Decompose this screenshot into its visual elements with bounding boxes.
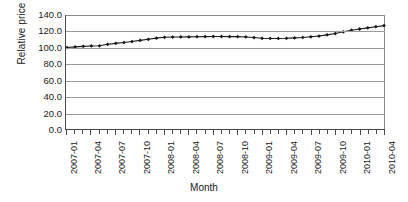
data-point-marker	[325, 33, 329, 37]
data-point-marker	[317, 34, 321, 38]
x-tick	[343, 130, 344, 134]
relative-price-line-chart: Relative price 0.020.040.060.080.0100.01…	[0, 0, 408, 202]
y-axis-tick-labels: 0.020.040.060.080.0100.0120.0140.0	[18, 10, 62, 134]
x-tick	[376, 130, 377, 134]
x-tick	[82, 130, 83, 134]
x-tick	[156, 130, 157, 134]
x-tick	[286, 130, 287, 135]
x-tick	[99, 130, 100, 134]
x-tick	[229, 130, 230, 134]
data-point-marker	[260, 36, 264, 40]
data-point-marker	[293, 36, 297, 40]
x-tick-label: 2008-07	[216, 141, 225, 174]
x-tick-label: 2010-04	[388, 141, 397, 174]
x-tick-label: 2008-01	[167, 141, 176, 174]
x-tick	[221, 130, 222, 134]
x-tick	[205, 130, 206, 134]
x-tick	[188, 130, 189, 135]
x-tick	[245, 130, 246, 134]
data-point-marker	[220, 35, 224, 39]
data-point-marker	[301, 36, 305, 40]
data-point-marker	[276, 37, 280, 41]
gridline	[66, 48, 385, 49]
x-tick-label: 2007-01	[70, 141, 79, 174]
x-tick-label: 2009-04	[290, 141, 299, 174]
data-point-marker	[228, 35, 232, 39]
x-tick	[180, 130, 181, 134]
x-tick	[360, 130, 361, 135]
data-point-marker	[122, 41, 126, 45]
x-tick	[123, 130, 124, 134]
x-tick	[74, 130, 75, 134]
gridline	[66, 114, 385, 115]
x-tick	[237, 130, 238, 135]
y-tick-label: 120.0	[38, 27, 62, 37]
series-line	[67, 26, 384, 48]
x-tick-label: 2008-04	[192, 141, 201, 174]
data-point-marker	[358, 27, 362, 31]
x-tick	[196, 130, 197, 134]
x-tick	[278, 130, 279, 134]
data-point-marker	[374, 25, 378, 29]
x-tick	[302, 130, 303, 134]
data-point-marker	[187, 35, 191, 39]
x-tick-label: 2009-01	[265, 141, 274, 174]
data-point-marker	[114, 41, 118, 45]
y-tick-label: 40.0	[44, 92, 63, 102]
x-tick	[254, 130, 255, 134]
x-tick	[327, 130, 328, 134]
y-tick-label: 0.0	[49, 125, 62, 135]
data-point-marker	[179, 35, 183, 39]
x-tick	[172, 130, 173, 134]
x-tick-label: 2009-07	[314, 141, 323, 174]
x-tick-label: 2009-10	[339, 141, 348, 174]
data-point-marker	[309, 35, 313, 39]
data-point-marker	[130, 40, 134, 44]
x-tick	[368, 130, 369, 134]
x-tick	[270, 130, 271, 134]
x-tick	[213, 130, 214, 135]
x-tick	[148, 130, 149, 134]
y-tick-label: 100.0	[38, 43, 62, 53]
data-point-marker	[138, 39, 142, 43]
y-tick-label: 20.0	[44, 109, 63, 119]
y-tick-label: 60.0	[44, 76, 63, 86]
data-point-marker	[146, 37, 150, 41]
data-point-marker	[155, 36, 159, 40]
y-tick-label: 80.0	[44, 60, 63, 70]
data-point-marker	[171, 35, 175, 39]
x-tick	[384, 130, 385, 135]
x-tick-label: 2007-04	[94, 141, 103, 174]
data-point-marker	[236, 35, 240, 39]
data-point-marker	[106, 42, 110, 46]
x-tick	[294, 130, 295, 134]
data-point-marker	[203, 35, 207, 39]
data-point-marker	[382, 24, 386, 28]
data-point-marker	[211, 35, 215, 39]
x-tick	[107, 130, 108, 134]
x-tick	[164, 130, 165, 135]
x-tick	[139, 130, 140, 135]
x-tick	[90, 130, 91, 135]
x-tick-label: 2007-10	[143, 141, 152, 174]
data-point-marker	[244, 35, 248, 39]
x-axis-ticks	[65, 130, 385, 135]
x-tick	[351, 130, 352, 134]
gridline	[66, 64, 385, 65]
x-tick-label: 2010-01	[363, 141, 372, 174]
x-tick	[319, 130, 320, 134]
x-tick	[131, 130, 132, 134]
data-point-marker	[268, 37, 272, 41]
data-point-marker	[195, 35, 199, 39]
x-tick	[335, 130, 336, 135]
y-tick-label: 140.0	[38, 10, 62, 20]
x-tick	[66, 130, 67, 135]
data-point-marker	[366, 26, 370, 30]
x-tick	[311, 130, 312, 135]
x-tick	[115, 130, 116, 135]
plot-area	[65, 15, 385, 130]
x-axis-tick-labels: 2007-012007-042007-072007-102008-012008-…	[65, 136, 385, 176]
data-point-marker	[163, 35, 167, 39]
gridline	[66, 81, 385, 82]
x-tick	[262, 130, 263, 135]
